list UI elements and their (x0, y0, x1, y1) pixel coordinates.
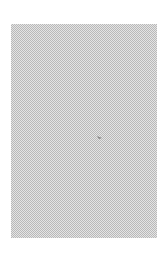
checkerboard-pattern-area (11, 24, 157, 238)
pointer-icon (97, 136, 102, 139)
